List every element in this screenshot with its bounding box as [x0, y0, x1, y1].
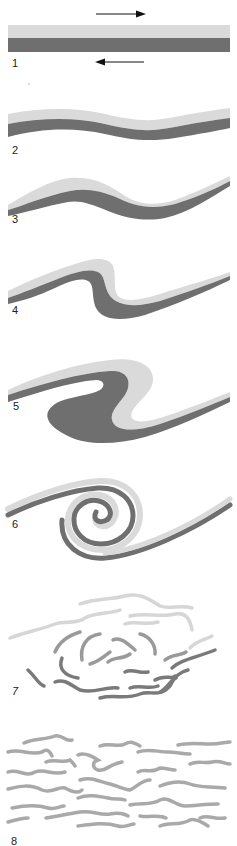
panel-label-4: 4 [12, 305, 18, 316]
panel-label-6: 6 [12, 519, 18, 530]
panel-1-flat-layers [8, 11, 230, 85]
mid-fragments [55, 632, 186, 664]
panel-6-vortex-spiral [8, 481, 230, 558]
panel-2-wave [8, 108, 230, 140]
kelvin-helmholtz-diagram [0, 0, 237, 846]
panel-7-turbulent-breakdown [10, 595, 215, 698]
panel-label-5: 5 [13, 401, 19, 412]
lower-layer [8, 38, 230, 52]
panel-label-8: 8 [11, 836, 17, 846]
panel-label-3: 3 [12, 214, 18, 225]
arrow-right-head-icon [136, 11, 146, 18]
panel-label-1: 1 [12, 58, 18, 69]
panel-label-7: 7 [12, 686, 18, 697]
panel-label-2: 2 [12, 145, 18, 156]
panel-3-growing-wave [8, 176, 230, 220]
light-fragments [10, 595, 212, 648]
upper-layer [8, 25, 230, 38]
panel-8-mixed-layer [8, 736, 230, 827]
arrow-left-head-icon [95, 59, 105, 66]
panel-5-overturning-billow [8, 359, 230, 443]
upper-layer [8, 259, 230, 305]
panel-4-steepening-wave [8, 259, 230, 319]
